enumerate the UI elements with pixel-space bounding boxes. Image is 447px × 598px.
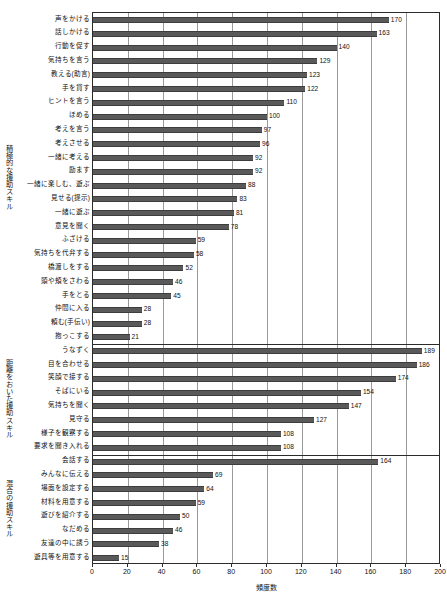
category-label: ほめる bbox=[16, 112, 92, 119]
bar-value-label: 92 bbox=[255, 155, 262, 162]
bar bbox=[93, 265, 183, 271]
bar bbox=[93, 114, 267, 120]
x-axis-tick-label: 140 bbox=[330, 568, 342, 575]
category-label: 考えを言う bbox=[16, 126, 92, 133]
group-label: 積極的な援助スキル bbox=[2, 12, 16, 343]
category-label: 気持ちを言う bbox=[16, 57, 92, 64]
gridline bbox=[197, 13, 198, 563]
bar bbox=[93, 183, 246, 189]
bar bbox=[93, 17, 389, 23]
x-axis-tick-label: 40 bbox=[158, 568, 166, 575]
gridline bbox=[163, 13, 164, 563]
x-axis-tick-label: 60 bbox=[192, 568, 200, 575]
category-label: 励ます bbox=[16, 167, 92, 174]
bar-value-label: 122 bbox=[307, 86, 318, 93]
bar-value-label: 59 bbox=[198, 500, 205, 507]
bar-value-label: 15 bbox=[121, 555, 128, 562]
bar bbox=[93, 472, 213, 478]
gridline bbox=[302, 13, 303, 563]
bar-value-label: 88 bbox=[248, 182, 255, 189]
group-separator bbox=[93, 344, 439, 345]
category-label: 声をかける bbox=[16, 16, 92, 23]
bar bbox=[93, 528, 173, 534]
bar-value-label: 52 bbox=[185, 265, 192, 272]
category-label: ヒントを言う bbox=[16, 98, 92, 105]
bar-value-label: 46 bbox=[175, 527, 182, 534]
bar-value-label: 69 bbox=[215, 472, 222, 479]
bar bbox=[93, 72, 307, 78]
category-label: 気持ちを聞く bbox=[16, 402, 92, 409]
bar-value-label: 58 bbox=[196, 251, 203, 258]
plot-area: 1701631401291231221101009796929288838178… bbox=[92, 12, 440, 564]
bar-value-label: 83 bbox=[239, 196, 246, 203]
gridline bbox=[406, 13, 407, 563]
bar-value-label: 46 bbox=[175, 279, 182, 286]
category-label: 笑顔で接する bbox=[16, 374, 92, 381]
bar-value-label: 81 bbox=[236, 210, 243, 217]
bar bbox=[93, 169, 253, 175]
category-label: 要求を聞き入れる bbox=[16, 443, 92, 450]
category-label: 一緒に考える bbox=[16, 154, 92, 161]
category-label: 頭や頬をさわる bbox=[16, 278, 92, 285]
category-label: 気持ちを代弁する bbox=[16, 250, 92, 257]
category-label: 抱っこする bbox=[16, 333, 92, 340]
bar-value-label: 59 bbox=[198, 237, 205, 244]
bar-value-label: 28 bbox=[144, 320, 151, 327]
bar-value-label: 170 bbox=[391, 17, 402, 24]
x-axis-tick bbox=[266, 564, 267, 567]
x-axis-tick-label: 120 bbox=[295, 568, 307, 575]
category-label: 手を貸す bbox=[16, 85, 92, 92]
x-axis-tick bbox=[370, 564, 371, 567]
bar bbox=[93, 555, 119, 561]
category-label: 意見を聞く bbox=[16, 223, 92, 230]
x-axis-tick bbox=[301, 564, 302, 567]
bar bbox=[93, 376, 396, 382]
category-label: 教える(助言) bbox=[16, 71, 92, 78]
horizontal-bar-chart: 積極的な援助スキル距離をおいた援助スキル混合の援助スキル 声をかける話しかける行… bbox=[0, 0, 447, 598]
bar-value-label: 140 bbox=[339, 44, 350, 51]
bar-value-label: 97 bbox=[264, 127, 271, 134]
bar bbox=[93, 431, 281, 437]
category-label: 遊びを紹介する bbox=[16, 512, 92, 519]
category-label: 材料を用意する bbox=[16, 499, 92, 506]
bar-value-label: 108 bbox=[283, 444, 294, 451]
bar bbox=[93, 486, 204, 492]
bar bbox=[93, 210, 234, 216]
bar bbox=[93, 459, 378, 465]
bar bbox=[93, 252, 194, 258]
bar bbox=[93, 127, 262, 133]
bar-value-label: 163 bbox=[379, 30, 390, 37]
x-axis-tick bbox=[336, 564, 337, 567]
bar bbox=[93, 196, 237, 202]
category-label: 遊具等を用意する bbox=[16, 554, 92, 561]
bar-value-label: 164 bbox=[380, 458, 391, 465]
x-axis-tick bbox=[196, 564, 197, 567]
category-label: そばにいる bbox=[16, 388, 92, 395]
bar bbox=[93, 334, 130, 340]
bar bbox=[93, 100, 284, 106]
bar-value-label: 174 bbox=[398, 375, 409, 382]
gridline bbox=[337, 13, 338, 563]
category-label: なだめる bbox=[16, 526, 92, 533]
bar-value-label: 78 bbox=[231, 224, 238, 231]
bar-value-label: 129 bbox=[319, 58, 330, 65]
x-axis-tick bbox=[162, 564, 163, 567]
category-label: 見せる(提示) bbox=[16, 195, 92, 202]
bar bbox=[93, 279, 173, 285]
category-label: 一緒に楽しむ、遊ぶ bbox=[16, 181, 92, 188]
x-axis-tick-label: 200 bbox=[434, 568, 446, 575]
category-label: 手をとる bbox=[16, 292, 92, 299]
bar bbox=[93, 224, 229, 230]
bar bbox=[93, 238, 196, 244]
bar bbox=[93, 445, 281, 451]
category-label: 考えさせる bbox=[16, 140, 92, 147]
x-axis-tick-label: 20 bbox=[123, 568, 131, 575]
category-label: 目を合わせる bbox=[16, 361, 92, 368]
category-label: 会話する bbox=[16, 457, 92, 464]
category-label: 話しかける bbox=[16, 29, 92, 36]
bar-value-label: 110 bbox=[286, 99, 297, 106]
bar-value-label: 123 bbox=[309, 72, 320, 79]
gridline bbox=[371, 13, 372, 563]
bar-value-label: 147 bbox=[351, 403, 362, 410]
x-axis-tick bbox=[92, 564, 93, 567]
